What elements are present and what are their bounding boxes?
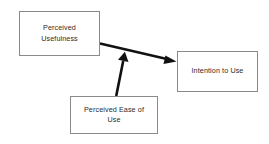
node-perceived-usefulness-label: Perceived Usefulness [38,23,81,44]
node-perceived-ease-of-use-label: Perceived Ease of Use [81,105,147,126]
node-perceived-ease-of-use: Perceived Ease of Use [70,96,158,134]
node-intention-to-use: Intention to Use [177,51,258,92]
edge-usefulness-to-intention [100,44,177,65]
node-perceived-usefulness: Perceived Usefulness [19,11,100,56]
node-intention-to-use-label: Intention to Use [189,66,247,76]
diagram-canvas: Perceived Usefulness Intention to Use Pe… [0,0,269,144]
edge-ease-to-usefulness-link [116,52,128,96]
